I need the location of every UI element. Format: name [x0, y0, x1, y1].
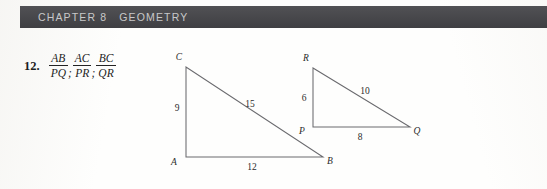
figure-area: C A B 9 12 15 R P Q 6 8 10 — [0, 0, 547, 189]
fraction-denominator: PR — [73, 65, 91, 79]
paper-texture — [0, 0, 547, 189]
fraction-denominator: QR — [96, 65, 115, 79]
side-length-ab: 12 — [247, 162, 257, 172]
fraction-separator: ; — [92, 67, 96, 80]
chapter-label: CHAPTER 8 — [38, 11, 107, 23]
fraction-separator: ; — [68, 67, 72, 80]
fraction-ab-pq: AB PQ — [49, 52, 68, 80]
fraction-numerator: AC — [73, 52, 92, 65]
side-length-ac: 9 — [175, 103, 180, 113]
vertex-label-p: P — [298, 126, 305, 136]
fraction-item-2: AC PR ; — [73, 52, 97, 80]
side-length-cb: 15 — [245, 99, 255, 109]
vertex-label-c: C — [176, 52, 183, 62]
vertex-label-q: Q — [414, 126, 421, 136]
side-length-pq: 8 — [358, 132, 363, 142]
fraction-numerator: AB — [49, 52, 67, 65]
triangles-svg: C A B 9 12 15 R P Q 6 8 10 — [0, 0, 547, 189]
fraction-numerator: BC — [97, 52, 116, 65]
triangle-pqr: R P Q 6 8 10 — [298, 53, 420, 142]
vertex-label-r: R — [302, 53, 309, 63]
triangle-pqr-outline — [313, 68, 410, 127]
vertex-label-b: B — [327, 156, 333, 166]
fraction-bc-qr: BC QR — [96, 52, 115, 80]
chapter-title: GEOMETRY — [119, 11, 188, 23]
fraction-ac-pr: AC PR — [73, 52, 92, 80]
fraction-denominator: PQ — [49, 65, 68, 79]
fraction-item-3: BC QR — [96, 52, 115, 80]
triangle-abc: C A B 9 12 15 — [170, 52, 333, 172]
fraction-item-1: AB PQ ; — [49, 52, 73, 80]
fraction-list: AB PQ ; AC PR ; BC QR — [49, 52, 116, 80]
side-length-rq: 10 — [360, 86, 370, 96]
vertex-label-a: A — [170, 157, 177, 167]
exercise-number: 12. — [24, 60, 40, 73]
chapter-running-head: CHAPTER 8 GEOMETRY — [20, 6, 547, 28]
side-length-pr: 6 — [302, 93, 307, 103]
textbook-page: CHAPTER 8 GEOMETRY 12. AB PQ ; AC PR ; — [0, 0, 547, 189]
triangle-abc-outline — [186, 67, 323, 157]
exercise-answer-line: 12. AB PQ ; AC PR ; BC QR — [24, 52, 116, 80]
